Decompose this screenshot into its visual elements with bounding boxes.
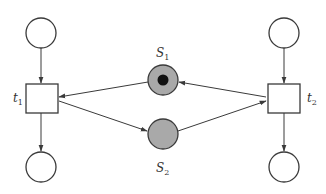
arc-s1-t1 [59,82,148,97]
place-top-left [26,18,56,48]
transition-t1 [26,84,58,113]
transition-t2 [268,84,300,113]
label-t1: t1 [13,91,23,107]
arc-t2-s1 [179,82,266,97]
label-s2: S2 [156,161,169,177]
label-t2: t2 [307,91,317,107]
token-icon [158,75,169,86]
place-top-right [269,18,299,48]
arc-s2-t2 [178,101,266,131]
place-bottom-left [26,152,56,182]
place-bottom-right [269,152,299,182]
place-s2 [148,119,178,149]
label-s1: S1 [156,46,169,62]
arc-t1-s2 [59,101,147,131]
petri-net-diagram: S1 S2 t1 t2 [0,0,326,194]
